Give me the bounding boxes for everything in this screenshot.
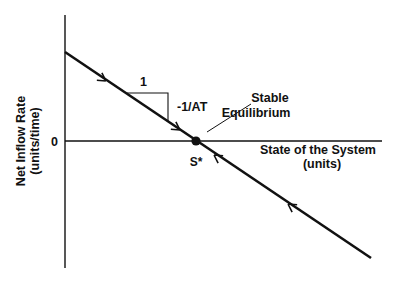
slope-run-label: 1 — [140, 75, 147, 89]
equilibrium-point — [191, 136, 200, 145]
y-axis-label-line2: (units/time) — [28, 107, 42, 174]
phase-plot-diagram: 1 -1/AT Stable Equilibrium 0 S* State of… — [0, 0, 397, 287]
annotation-equilibrium: Equilibrium — [222, 106, 291, 120]
y-axis-label-line1: Net Inflow Rate — [14, 96, 28, 186]
annotation-stable: Stable — [251, 91, 289, 105]
y-zero-tick-label: 0 — [51, 135, 58, 149]
x-axis-label-line2: (units) — [303, 157, 341, 171]
x-axis-label-line1: State of the System — [260, 143, 376, 157]
slope-rise-label: -1/AT — [177, 100, 208, 114]
equilibrium-point-label: S* — [190, 155, 203, 169]
